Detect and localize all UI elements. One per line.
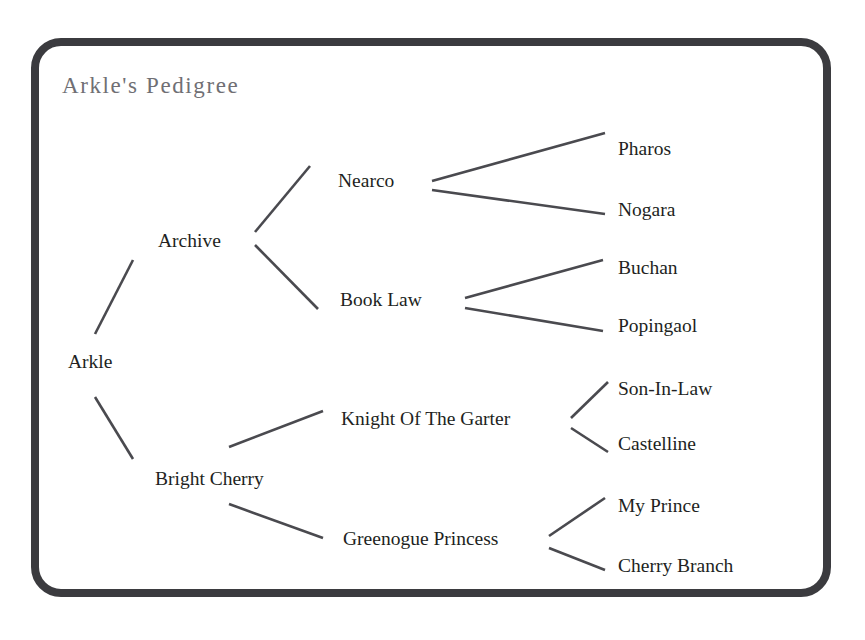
node-archive: Archive <box>158 231 221 251</box>
node-castelline: Castelline <box>618 434 696 454</box>
node-buchan: Buchan <box>618 258 678 278</box>
node-greenogue-princess: Greenogue Princess <box>343 529 498 549</box>
node-cherry-branch: Cherry Branch <box>618 556 733 576</box>
pedigree-diagram-page: Arkle's Pedigree Arkle Archive Bright Ch… <box>0 0 865 640</box>
node-arkle: Arkle <box>68 352 112 372</box>
diagram-border-frame <box>31 38 831 597</box>
node-my-prince: My Prince <box>618 496 700 516</box>
node-book-law: Book Law <box>340 290 422 310</box>
node-nogara: Nogara <box>618 200 675 220</box>
node-pharos: Pharos <box>618 139 671 159</box>
node-popingaol: Popingaol <box>618 316 697 336</box>
node-bright-cherry: Bright Cherry <box>155 469 264 489</box>
node-son-in-law: Son-In-Law <box>618 379 712 399</box>
node-knight-of-the-garter: Knight Of The Garter <box>341 409 510 429</box>
node-nearco: Nearco <box>338 171 394 191</box>
page-title: Arkle's Pedigree <box>62 73 239 99</box>
